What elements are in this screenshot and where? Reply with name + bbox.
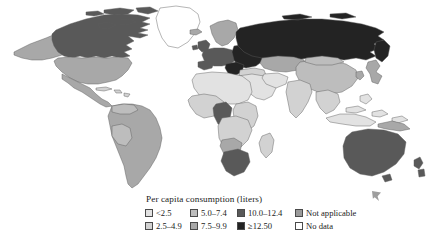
legend-label-no-data: No data — [306, 222, 333, 231]
legend-entry-7-5-9-9: 7.5–9.9 — [190, 222, 237, 231]
legend-row: 2.5–4.9 7.5–9.9 ≥12.50 No data — [145, 220, 426, 232]
world-choropleth-figure: Per capita consumption (liters) <2.5 5.0… — [0, 0, 426, 252]
legend-title: Per capita consumption (liters) — [146, 194, 426, 205]
world-map-svg — [0, 0, 426, 200]
legend-label-2-5-4-9: 2.5–4.9 — [156, 222, 182, 231]
legend-label-not-applicable: Not applicable — [306, 209, 356, 218]
legend-swatch-no-data — [295, 222, 303, 230]
legend-label-10-0-12-4: 10.0–12.4 — [248, 209, 282, 218]
legend-row: <2.5 5.0–7.4 10.0–12.4 Not applicable — [145, 207, 426, 219]
legend-swatch-ge-12-50 — [237, 222, 245, 230]
legend-label-7-5-9-9: 7.5–9.9 — [201, 222, 227, 231]
legend-label-5-0-7-4: 5.0–7.4 — [201, 209, 227, 218]
legend-label-ge-12-50: ≥12.50 — [248, 222, 272, 231]
legend-entry-5-0-7-4: 5.0–7.4 — [190, 209, 237, 218]
legend-swatch-lt-2-5 — [145, 209, 153, 217]
legend-entry-not-applicable: Not applicable — [295, 209, 356, 218]
legend-entry-10-0-12-4: 10.0–12.4 — [237, 209, 295, 218]
legend-swatch-7-5-9-9 — [190, 222, 198, 230]
map-canvas — [0, 0, 426, 200]
legend-entry-no-data: No data — [295, 222, 333, 231]
legend-label-lt-2-5: <2.5 — [156, 209, 172, 218]
legend-swatch-not-applicable — [295, 209, 303, 217]
map-legend: Per capita consumption (liters) <2.5 5.0… — [145, 194, 426, 244]
legend-entry-2-5-4-9: 2.5–4.9 — [145, 222, 190, 231]
legend-entry-lt-2-5: <2.5 — [145, 209, 190, 218]
legend-swatch-10-0-12-4 — [237, 209, 245, 217]
legend-swatch-5-0-7-4 — [190, 209, 198, 217]
legend-swatch-2-5-4-9 — [145, 222, 153, 230]
legend-entry-ge-12-50: ≥12.50 — [237, 222, 295, 231]
